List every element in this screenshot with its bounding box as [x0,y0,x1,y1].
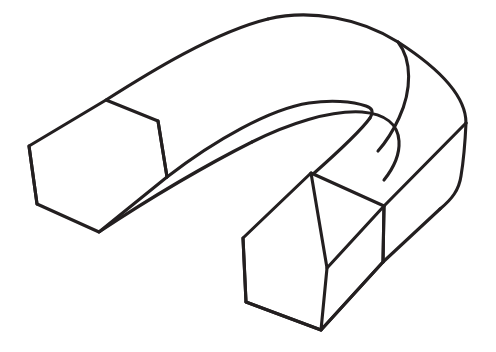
figure-canvas: U-shaped horseshoe solid Black line draw… [0,0,496,352]
u-shaped-solid-drawing [0,0,496,352]
right-arm-back-vertical-edge [383,206,384,262]
